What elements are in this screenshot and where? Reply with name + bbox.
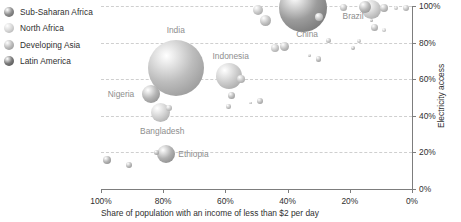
x-tick-60 — [225, 189, 226, 193]
legend-item-sub-saharan-africa[interactable]: Sub-Saharan Africa — [4, 4, 108, 19]
x-tick-label-80: 80% — [155, 196, 172, 206]
legend-bubble-icon — [4, 56, 14, 66]
x-tick-40 — [288, 189, 289, 193]
x-tick-label-100: 100% — [90, 196, 111, 206]
bubble-point[interactable] — [351, 46, 355, 50]
y-tick-100 — [412, 6, 416, 7]
y-tick-label-60: 60% — [419, 74, 436, 84]
bubble-point[interactable] — [380, 4, 388, 12]
y-tick-label-100: 100% — [419, 1, 440, 11]
bubble-point[interactable] — [382, 28, 386, 32]
bubble-label-india: India — [167, 25, 185, 35]
bubble-point[interactable] — [326, 38, 331, 43]
bubble-point[interactable] — [257, 98, 263, 104]
bubble-label-ethiopia: Ethiopia — [178, 149, 208, 159]
bubble-point[interactable] — [371, 24, 378, 31]
y-tick-label-40: 40% — [419, 111, 436, 121]
gridline-40 — [101, 116, 412, 117]
x-axis-line — [101, 189, 413, 190]
y-axis-line — [412, 6, 413, 189]
bubble-point[interactable] — [253, 5, 263, 15]
x-tick-label-40: 40% — [279, 196, 296, 206]
x-axis-title: Share of population with an income of le… — [101, 208, 319, 218]
bubble-label-brazil: Brazil — [343, 11, 364, 21]
legend-bubble-icon — [4, 7, 14, 17]
bubble-label-nigeria: Nigeria — [108, 89, 135, 99]
legend-item-latin-america[interactable]: Latin America — [4, 54, 108, 69]
bubble-point[interactable] — [260, 15, 271, 26]
bubble-point[interactable] — [316, 56, 321, 61]
bubble-chart-figure: Sub-Saharan AfricaNorth AfricaDeveloping… — [0, 0, 461, 222]
gridline-80 — [101, 43, 412, 44]
bubble-point[interactable] — [308, 54, 311, 57]
legend-item-label: Sub-Saharan Africa — [20, 7, 93, 17]
bubble-point[interactable] — [271, 44, 279, 52]
gridline-60 — [101, 79, 412, 80]
y-tick-label-80: 80% — [419, 38, 436, 48]
bubble-point[interactable] — [237, 75, 245, 83]
bubble-label-china: China — [296, 29, 318, 39]
y-tick-label-0: 0% — [419, 184, 431, 194]
bubble-point[interactable] — [249, 102, 252, 105]
x-tick-0 — [412, 189, 413, 193]
bubble-point[interactable] — [394, 6, 398, 10]
bubble-point[interactable] — [103, 156, 111, 164]
bubble-point[interactable] — [370, 19, 373, 22]
bubble-label-indonesia: Indonesia — [213, 51, 249, 61]
bubble-point[interactable] — [166, 105, 172, 111]
bubble-point[interactable] — [226, 104, 230, 108]
bubble-label-bangladesh: Bangladesh — [140, 126, 184, 136]
y-tick-60 — [412, 79, 416, 80]
legend-item-label: Developing Asia — [20, 40, 80, 50]
bubble-point[interactable] — [228, 92, 235, 99]
bubble-point[interactable] — [403, 5, 409, 11]
bubble-ethiopia[interactable] — [157, 145, 175, 163]
y-axis-title: Electricity access — [436, 64, 446, 128]
x-tick-80 — [163, 189, 164, 193]
bubble-point[interactable] — [280, 42, 289, 51]
bubble-point[interactable] — [315, 13, 323, 21]
y-tick-20 — [412, 152, 416, 153]
chart-legend: Sub-Saharan AfricaNorth AfricaDeveloping… — [4, 4, 108, 70]
y-tick-80 — [412, 43, 416, 44]
y-tick-label-20: 20% — [419, 147, 436, 157]
bubble-nigeria[interactable] — [142, 85, 160, 103]
legend-bubble-icon — [4, 40, 14, 50]
legend-item-developing-asia[interactable]: Developing Asia — [4, 37, 108, 52]
bubble-point[interactable] — [126, 162, 132, 168]
x-tick-label-20: 20% — [341, 196, 358, 206]
x-tick-label-0: 0% — [406, 196, 418, 206]
x-tick-100 — [101, 189, 102, 193]
legend-item-label: North Africa — [20, 23, 64, 33]
legend-item-label: Latin America — [20, 56, 71, 66]
y-tick-40 — [412, 116, 416, 117]
x-tick-20 — [350, 189, 351, 193]
x-tick-label-60: 60% — [217, 196, 234, 206]
gridline-20 — [101, 152, 412, 153]
legend-bubble-icon — [4, 23, 14, 33]
plot-area: IndiaChinaIndonesiaNigeriaBangladeshEthi… — [101, 0, 412, 189]
legend-item-north-africa[interactable]: North Africa — [4, 21, 108, 36]
